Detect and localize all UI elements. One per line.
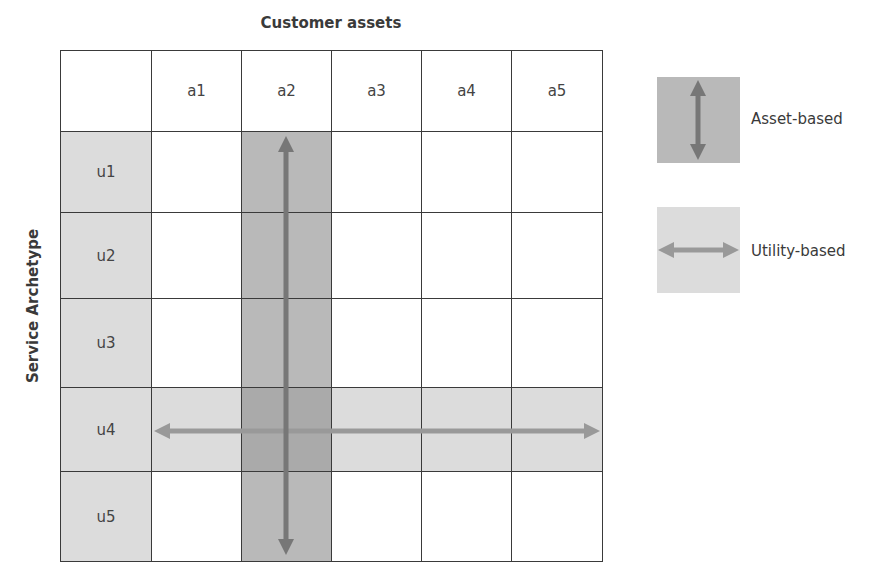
grid-cell [421,212,512,299]
archetype-grid: a1a2a3a4a5u1u2u3u4u5 [60,50,602,561]
grid-cell [151,212,242,299]
grid-cell [421,387,512,472]
column-header-a2: a2 [241,50,332,132]
grid-cell [151,471,242,562]
grid-cell [241,387,332,472]
grid-cell [511,131,603,213]
grid-cell [331,212,422,299]
column-header-a4: a4 [421,50,512,132]
grid-cell [421,471,512,562]
grid-cell [331,131,422,213]
column-header-a5: a5 [511,50,603,132]
grid-cell [151,298,242,388]
grid-cell [241,131,332,213]
row-axis-title: Service Archetype [24,229,42,383]
grid-cell [511,471,603,562]
column-header-a3: a3 [331,50,422,132]
grid-cell [511,387,603,472]
grid-cell [151,131,242,213]
legend-asset-based: Asset-based [751,110,843,128]
row-header-u2: u2 [60,212,152,299]
grid-cell [511,212,603,299]
grid-cell [241,212,332,299]
row-header-u4: u4 [60,387,152,472]
grid-cell [421,298,512,388]
grid-cell [241,298,332,388]
grid-cell [511,298,603,388]
grid-cell [331,387,422,472]
row-header-u3: u3 [60,298,152,388]
row-header-u1: u1 [60,131,152,213]
row-header-u5: u5 [60,471,152,562]
grid-cell [421,131,512,213]
column-header-a1: a1 [151,50,242,132]
grid-cell [241,471,332,562]
grid-cell [151,387,242,472]
grid-cell [331,471,422,562]
column-axis-title: Customer assets [60,14,602,32]
corner-cell [60,50,152,132]
legend-utility-based: Utility-based [751,242,846,260]
grid-cell [331,298,422,388]
